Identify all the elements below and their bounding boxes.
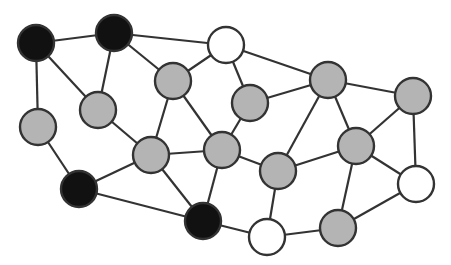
graph-node-gray-8 bbox=[310, 62, 346, 98]
graph-node-gray-12 bbox=[260, 153, 296, 189]
graph-node-black-1 bbox=[18, 25, 54, 61]
graph-node-gray-4 bbox=[155, 63, 191, 99]
graph-node-gray-5 bbox=[80, 92, 116, 128]
graph-node-black-2 bbox=[96, 15, 132, 51]
graph-node-black-14 bbox=[61, 171, 97, 207]
graph-node-gray-7 bbox=[232, 85, 268, 121]
graph-node-white-18 bbox=[398, 166, 434, 202]
graph-node-gray-10 bbox=[133, 137, 169, 173]
network-graph-diagram bbox=[0, 0, 451, 265]
graph-node-gray-11 bbox=[204, 132, 240, 168]
graph-node-white-3 bbox=[208, 27, 244, 63]
graph-edge-14-15 bbox=[79, 189, 203, 221]
graph-node-gray-6 bbox=[20, 109, 56, 145]
graph-node-gray-9 bbox=[395, 78, 431, 114]
graph-node-white-16 bbox=[249, 219, 285, 255]
graph-nodes bbox=[18, 15, 434, 255]
graph-node-gray-17 bbox=[320, 210, 356, 246]
graph-node-black-15 bbox=[185, 203, 221, 239]
graph-node-gray-13 bbox=[338, 128, 374, 164]
